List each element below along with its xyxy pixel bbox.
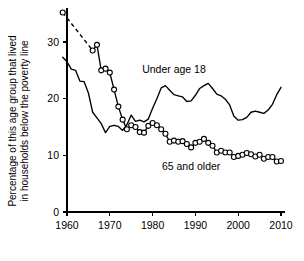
data-point-marker (189, 145, 194, 150)
data-point-marker (210, 143, 215, 148)
data-point-marker (103, 66, 108, 71)
data-point-marker (60, 10, 65, 15)
y-axis-title-line2: in households below the poverty line (19, 40, 30, 202)
y-tick-label: 30 (47, 36, 59, 48)
x-tick-label: 1970 (98, 219, 122, 231)
data-point-marker (107, 70, 112, 75)
data-point-marker (112, 87, 117, 92)
data-point-marker (154, 123, 159, 128)
y-axis-title-line1: Percentage of this age group that lived (7, 35, 18, 206)
y-tick-label: 20 (47, 92, 59, 104)
series-annotations: Under age 1865 and older (142, 63, 221, 172)
data-point-marker (270, 155, 275, 160)
data-point-marker (116, 104, 121, 109)
axis-lines (67, 8, 285, 212)
x-tick-label: 1990 (184, 219, 208, 231)
data-point-marker (227, 150, 232, 155)
series-label: Under age 18 (142, 63, 206, 75)
x-tick-label: 1960 (55, 219, 79, 231)
axis-titles: Percentage of this age group that lived … (7, 35, 30, 206)
axes: 0102030196019701980199020002010 (47, 8, 293, 231)
data-point-marker (90, 48, 95, 53)
data-point-marker (201, 136, 206, 141)
chart-canvas: 0102030196019701980199020002010 Under ag… (0, 0, 304, 261)
data-point-marker (124, 127, 129, 132)
data-point-marker (163, 131, 168, 136)
series-label: 65 and older (162, 160, 221, 172)
data-series (60, 10, 283, 164)
x-tick-label: 2000 (227, 219, 251, 231)
y-tick-label: 0 (53, 206, 59, 218)
y-tick-label: 10 (47, 149, 59, 161)
data-point-marker (279, 159, 284, 164)
data-point-marker (94, 42, 99, 47)
data-point-marker (133, 125, 138, 130)
data-point-marker (159, 127, 164, 132)
data-point-marker (142, 130, 147, 135)
x-tick-label: 2010 (269, 219, 293, 231)
data-point-marker (257, 152, 262, 157)
data-point-marker (120, 117, 125, 122)
poverty-rate-chart: 0102030196019701980199020002010 Under ag… (0, 0, 304, 261)
x-tick-label: 1980 (141, 219, 165, 231)
